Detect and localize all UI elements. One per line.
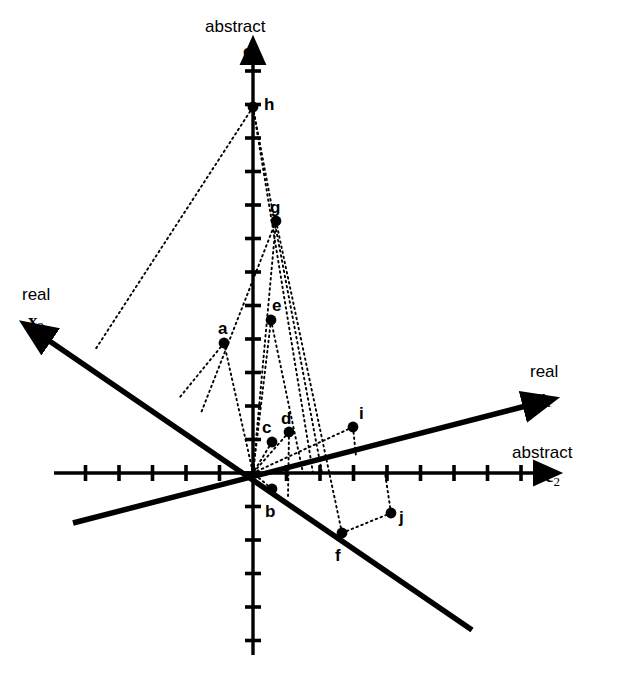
- data-point-b: [267, 484, 278, 495]
- axis-c1-subscript: 1: [251, 49, 258, 64]
- data-point-i: [348, 422, 359, 433]
- point-label-h: h: [264, 96, 274, 113]
- data-point-c: [267, 437, 278, 448]
- axis-c1-symbol-label: c1: [243, 41, 258, 63]
- projection-line-h: [95, 107, 253, 350]
- projection-line-a: [180, 343, 224, 397]
- point-label-g: g: [270, 199, 280, 216]
- axis-c2-symbol-label: c2: [545, 466, 560, 488]
- point-label-f: f: [335, 547, 341, 564]
- axis-line-x1: [73, 406, 526, 523]
- data-point-f: [337, 528, 348, 539]
- data-point-a: [219, 338, 230, 349]
- data-point-j: [386, 508, 397, 519]
- axis-x2-symbol: x: [28, 310, 38, 331]
- axis-x2-kind-label: real: [22, 286, 50, 303]
- point-label-i: i: [359, 405, 364, 422]
- data-point-e: [266, 315, 277, 326]
- axis-c2-kind-label: abstract: [512, 444, 572, 461]
- axis-c2-subscript: 2: [553, 474, 560, 489]
- projection-line-f: [342, 513, 391, 533]
- axis-x2-symbol-label: x2: [28, 311, 44, 333]
- axis-x1: [73, 406, 526, 523]
- point-label-c: c: [262, 419, 271, 436]
- axes-group: [48, 62, 536, 655]
- axis-x1-kind-label: real: [530, 363, 558, 380]
- point-label-j: j: [399, 509, 404, 526]
- point-label-b: b: [265, 503, 275, 520]
- axis-line-x2: [48, 340, 472, 630]
- data-point-h: [248, 102, 259, 113]
- point-label-a: a: [218, 320, 227, 337]
- diagram-canvas: [0, 0, 622, 683]
- point-label-e: e: [272, 297, 281, 314]
- projection-line-g: [201, 221, 276, 413]
- projection-line-g: [276, 221, 342, 533]
- vector-space-diagram: abstract c1 abstract c2 real x1 real x2 …: [0, 0, 622, 683]
- data-point-d: [284, 427, 295, 438]
- projection-line-d: [288, 432, 289, 498]
- data-point-g: [271, 216, 282, 227]
- projection-line-a: [224, 343, 253, 473]
- axis-x2: [48, 340, 472, 630]
- axis-c1-kind-label: abstract: [205, 18, 265, 35]
- point-label-d: d: [281, 410, 291, 427]
- axis-x1-subscript: 1: [546, 395, 553, 410]
- projection-line-e: [253, 320, 271, 473]
- axis-x1-symbol: x: [536, 386, 546, 407]
- projection-lines-group: [95, 107, 391, 533]
- axis-x2-subscript: 2: [38, 319, 45, 334]
- axis-x1-symbol-label: x1: [536, 387, 552, 409]
